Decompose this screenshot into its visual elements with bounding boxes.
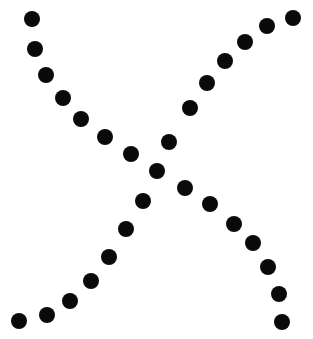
dot-marker [135,193,151,209]
dot-marker [101,249,117,265]
dot-marker [55,90,71,106]
dot-marker [118,221,134,237]
dot-marker [161,134,177,150]
dot-marker [237,34,253,50]
dot-marker [123,146,139,162]
dot-marker [73,111,89,127]
dot-marker [83,273,99,289]
dot-marker [202,196,218,212]
dot-marker [11,313,27,329]
dot-marker [271,286,287,302]
dot-marker [199,75,215,91]
dot-marker [38,67,54,83]
dot-marker [24,11,40,27]
dot-marker [27,41,43,57]
dot-marker [62,293,78,309]
dot-marker [260,259,276,275]
dot-marker [217,53,233,69]
dot-marker [177,180,193,196]
dot-marker [274,314,290,330]
dot-marker [259,18,275,34]
dot-marker [285,10,301,26]
dot-marker [182,100,198,116]
dot-marker [226,216,242,232]
dot-marker [39,307,55,323]
dot-marker [149,163,165,179]
dotted-x-svg-canvas [0,0,313,339]
dot-marker [97,129,113,145]
dot-marker [245,235,261,251]
dotted-x-figure [0,0,313,339]
